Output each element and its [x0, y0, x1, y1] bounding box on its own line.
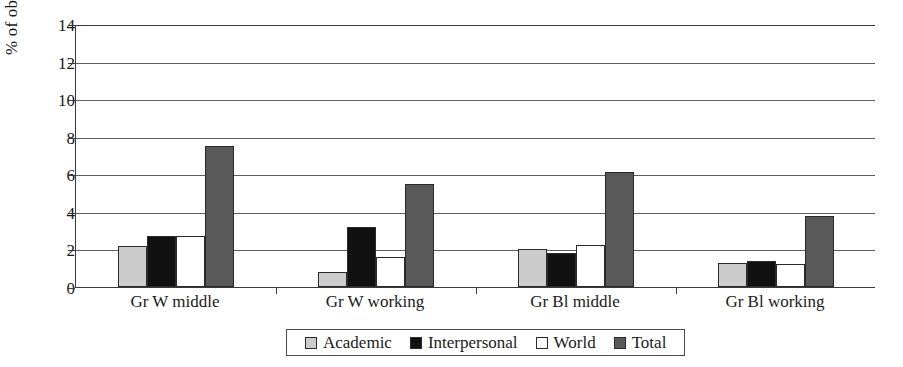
y-axis-title: % of observations	[2, 0, 24, 82]
legend-item: Academic	[305, 334, 392, 351]
bar-group	[76, 25, 276, 287]
bar-total	[405, 184, 434, 287]
legend-label: Interpersonal	[428, 334, 518, 351]
bar-world	[776, 264, 805, 287]
bar-academic	[118, 246, 147, 287]
legend-swatch-world	[536, 337, 548, 349]
legend-swatch-academic	[305, 337, 317, 349]
bar-group	[476, 25, 676, 287]
y-tick-mark	[68, 25, 75, 26]
bar-academic	[518, 249, 547, 287]
y-tick-mark	[68, 100, 75, 101]
bar-total	[205, 146, 234, 287]
legend-swatch-interpersonal	[410, 337, 422, 349]
x-tick-label: Gr W middle	[75, 292, 275, 312]
plot-area	[75, 25, 875, 288]
bar-group	[276, 25, 476, 287]
bar-interpersonal	[547, 253, 576, 287]
x-tick-label: Gr Bl middle	[475, 292, 675, 312]
y-tick-mark	[68, 138, 75, 139]
bar-world	[176, 236, 205, 287]
bar-interpersonal	[147, 236, 176, 287]
x-tick-label: Gr Bl working	[675, 292, 875, 312]
legend-item: Interpersonal	[410, 334, 518, 351]
legend-item: Total	[614, 334, 667, 351]
bar-total	[605, 172, 634, 287]
y-tick-mark	[68, 175, 75, 176]
y-axis: 02468101214	[30, 25, 75, 288]
legend-swatch-total	[614, 337, 626, 349]
x-axis-labels: Gr W middleGr W workingGr Bl middleGr Bl…	[75, 292, 875, 318]
bar-academic	[718, 263, 747, 287]
y-tick-mark	[68, 213, 75, 214]
bar-interpersonal	[347, 227, 376, 287]
bar-world	[576, 245, 605, 287]
y-tick-mark	[68, 288, 75, 289]
bars-layer	[76, 25, 875, 287]
legend-item: World	[536, 334, 596, 351]
legend: AcademicInterpersonalWorldTotal	[286, 329, 685, 356]
y-tick-mark	[68, 250, 75, 251]
y-axis-title-container: % of observations	[0, 0, 34, 290]
x-tick-label: Gr W working	[275, 292, 475, 312]
y-tick-mark	[68, 63, 75, 64]
legend-label: Total	[632, 334, 667, 351]
bar-academic	[318, 272, 347, 287]
bar-interpersonal	[747, 261, 776, 287]
bar-total	[805, 216, 834, 287]
legend-label: Academic	[323, 334, 392, 351]
bar-group	[676, 25, 876, 287]
bar-chart: % of observations 02468101214 Gr W middl…	[0, 0, 903, 367]
legend-label: World	[554, 334, 596, 351]
bar-world	[376, 257, 405, 287]
